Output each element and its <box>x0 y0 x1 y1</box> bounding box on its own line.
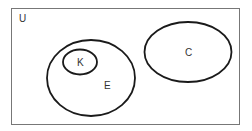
set-c-label: C <box>185 47 192 58</box>
set-e-label: E <box>104 80 111 91</box>
set-e-ellipse <box>47 40 135 116</box>
universe-rectangle <box>12 9 240 125</box>
set-k-label: K <box>77 57 84 68</box>
universe-label: U <box>19 13 26 24</box>
venn-diagram: U E K C <box>0 0 252 131</box>
